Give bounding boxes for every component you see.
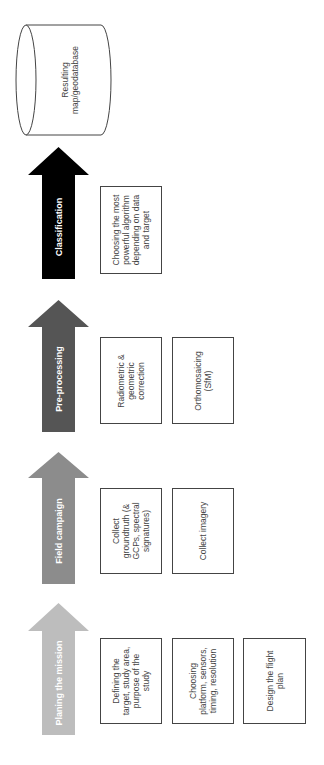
task-box: Radiometric & geometric correction [100,337,162,424]
task-text: Design the flight plan [265,639,285,723]
stage-label: Pre-processing [54,346,64,412]
task-box: Choosing the most powerful algorithm dep… [100,186,162,274]
output-label: Resulting map/geodatabase [60,30,80,130]
task-box: Orthomosaicing (SfM) [172,337,234,424]
stage-label: Planing the mission [54,640,64,725]
task-text: Orthomosaicing (SfM) [193,339,213,423]
stage-arrow-classification: Classification [27,147,90,280]
task-box: Defining the target, study area, purpose… [100,638,162,724]
output-database-cylinder: Resulting map/geodatabase [14,24,112,136]
task-text: Radiometric & geometric correction [116,339,146,423]
task-box: Design the flight plan [243,638,306,724]
stage-label: Field campaign [54,498,64,564]
task-text: Collect groundtruth (& GCPs, spectral si… [111,489,151,573]
task-text: Defining the target, study area, purpose… [111,639,151,723]
task-text: Choosing platform, sensors, timing, reso… [188,639,218,723]
task-box: Collect groundtruth (& GCPs, spectral si… [100,488,162,574]
stage-label: Classification [54,198,64,257]
task-box: Collect imagery [172,488,234,574]
stage-arrow-planing-the-mission: Planing the mission [27,603,90,736]
task-box: Choosing platform, sensors, timing, reso… [172,638,234,724]
task-text: Collect imagery [198,489,208,573]
stage-arrow-pre-processing: Pre-processing [27,300,90,433]
task-text: Choosing the most powerful algorithm dep… [111,188,151,272]
stage-arrow-field-campaign: Field campaign [27,452,90,585]
